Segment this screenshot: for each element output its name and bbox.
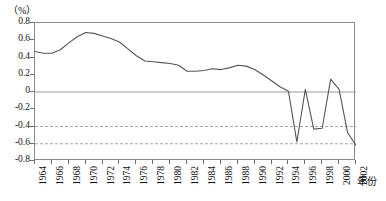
y-axis-unit-label: （%） xyxy=(8,2,36,17)
x-tick-mark xyxy=(34,160,35,164)
y-axis-tick-labels: 0.80.60.40.20-0.2-0.4-0.6-0.8 xyxy=(0,22,30,160)
x-tick-label: 1982 xyxy=(190,166,200,185)
x-tick-mark xyxy=(237,160,238,164)
x-tick-mark xyxy=(254,160,255,164)
x-tick-mark xyxy=(220,160,221,164)
x-tick-mark xyxy=(186,160,187,164)
x-tick-mark xyxy=(135,160,136,164)
x-tick-mark xyxy=(287,160,288,164)
data-line xyxy=(35,32,356,145)
x-tick-mark xyxy=(102,160,103,164)
x-tick-label: 1972 xyxy=(106,166,116,185)
x-axis-tick-marks xyxy=(34,160,355,165)
x-tick-mark xyxy=(355,160,356,164)
x-tick-label: 1974 xyxy=(122,166,132,185)
x-tick-label: 1964 xyxy=(38,166,48,185)
x-tick-mark xyxy=(271,160,272,164)
plot-area xyxy=(34,22,355,160)
x-tick-mark xyxy=(152,160,153,164)
x-axis-tick-labels: 1964196619681970197219741976197819801982… xyxy=(34,166,355,200)
data-series-layer xyxy=(35,32,356,145)
x-tick-mark xyxy=(304,160,305,164)
x-tick-label: 1980 xyxy=(173,166,183,185)
x-tick-label: 1966 xyxy=(55,166,65,185)
x-tick-label: 2000 xyxy=(342,166,352,185)
x-tick-mark xyxy=(118,160,119,164)
x-tick-label: 1998 xyxy=(325,166,335,185)
x-tick-label: 1970 xyxy=(89,166,99,185)
x-tick-mark xyxy=(321,160,322,164)
x-tick-label: 1976 xyxy=(139,166,149,185)
x-tick-label: 1988 xyxy=(241,166,251,185)
x-tick-label: 1990 xyxy=(258,166,268,185)
x-tick-mark xyxy=(68,160,69,164)
chart-container: （%） 0.80.60.40.20-0.2-0.4-0.6-0.8 196419… xyxy=(0,0,386,201)
x-tick-mark xyxy=(169,160,170,164)
x-axis-title: 年份 xyxy=(357,176,377,187)
x-tick-label: 1968 xyxy=(72,166,82,185)
x-tick-mark xyxy=(51,160,52,164)
x-tick-label: 1984 xyxy=(207,166,217,185)
line-chart-svg xyxy=(35,23,356,161)
x-tick-label: 1986 xyxy=(224,166,234,185)
x-tick-mark xyxy=(85,160,86,164)
x-tick-label: 1994 xyxy=(291,166,301,185)
x-tick-label: 1992 xyxy=(275,166,285,185)
x-tick-mark xyxy=(203,160,204,164)
x-tick-label: 1996 xyxy=(308,166,318,185)
x-tick-mark xyxy=(338,160,339,164)
x-tick-label: 1978 xyxy=(156,166,166,185)
